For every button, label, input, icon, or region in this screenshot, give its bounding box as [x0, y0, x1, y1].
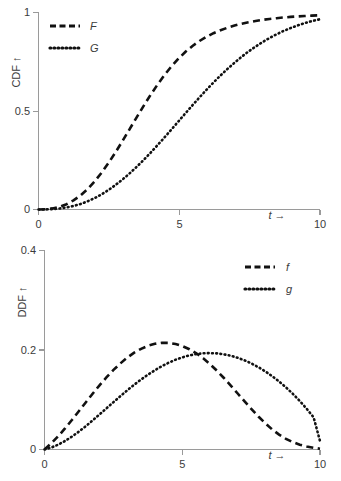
cdf-chart-svg: 1 0.5 0 0 5 10 CDF ↑ t → F G [0, 0, 341, 240]
ddf-panel: 0.4 0.2 0 0 5 10 DDF ↑ t → f g [0, 240, 341, 481]
cdf-legend: F G [50, 20, 99, 54]
cdf-x-tick-label-10: 10 [314, 218, 326, 230]
cdf-x-tick-label-5: 5 [176, 218, 182, 230]
ddf-x-tick-label-10: 10 [314, 458, 326, 470]
two-panel-distribution-figure: 1 0.5 0 0 5 10 CDF ↑ t → F G [0, 0, 341, 481]
cdf-x-axis-title: t → [268, 209, 285, 221]
cdf-legend-label-F: F [90, 20, 98, 32]
ddf-legend-label-f: f [286, 261, 290, 273]
cdf-x-tick-label-0: 0 [35, 218, 41, 230]
cdf-y-tick-label-1: 1 [24, 6, 30, 18]
ddf-y-tick-label-0: 0 [30, 443, 36, 455]
ddf-curve-f [45, 343, 321, 450]
ddf-y-tick-label-0point2: 0.2 [21, 344, 36, 356]
cdf-y-tick-label-0point5: 0.5 [15, 105, 30, 117]
ddf-x-axis-title: t → [268, 449, 285, 461]
ddf-chart-svg: 0.4 0.2 0 0 5 10 DDF ↑ t → f g [0, 240, 341, 481]
ddf-x-tick-label-0: 0 [41, 458, 47, 470]
cdf-curve-G [39, 19, 321, 209]
cdf-panel: 1 0.5 0 0 5 10 CDF ↑ t → F G [0, 0, 341, 240]
cdf-legend-label-G: G [90, 42, 99, 54]
ddf-y-axis-title: DDF ↑ [16, 286, 28, 317]
cdf-y-tick-label-0: 0 [24, 203, 30, 215]
ddf-legend: f g [245, 261, 293, 295]
cdf-y-axis-title: CDF ↑ [10, 56, 22, 87]
ddf-y-tick-label-0point4: 0.4 [21, 244, 36, 256]
ddf-x-tick-label-5: 5 [179, 458, 185, 470]
ddf-legend-label-g: g [286, 283, 293, 295]
cdf-curve-F [39, 15, 321, 209]
